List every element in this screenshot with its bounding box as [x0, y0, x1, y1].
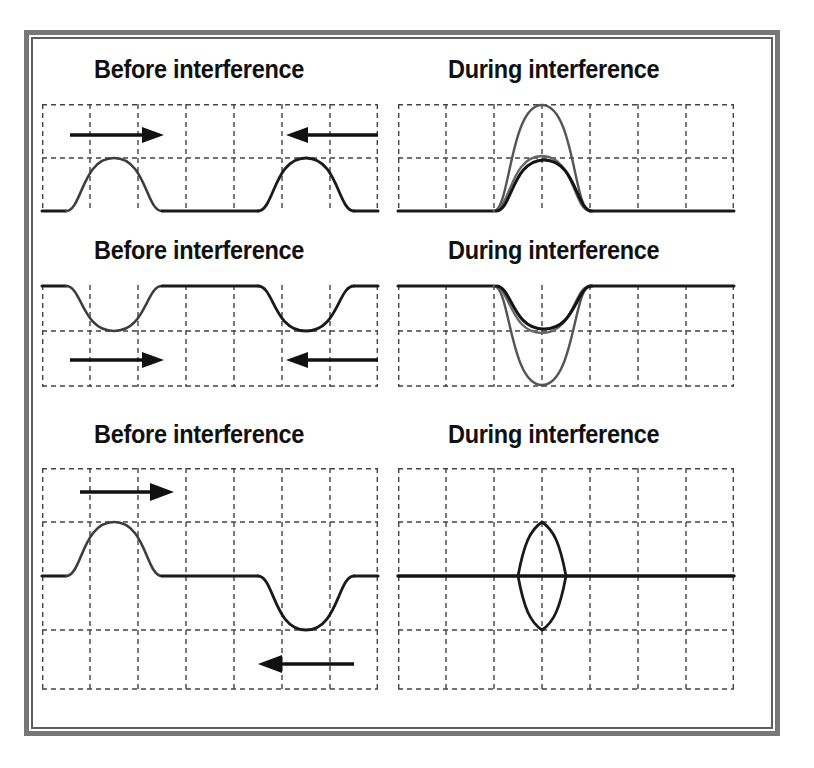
panel-row1-before: Before interference [42, 55, 378, 215]
panel-row2-before: Before interference [42, 236, 378, 386]
panel-row1-during: During interference [398, 55, 734, 215]
arrows-row3-before [42, 468, 442, 690]
panel-title: During interference [448, 420, 659, 449]
panel-row3-during: During interference [398, 420, 734, 690]
arrows-row1-before [42, 104, 442, 216]
panel-title: During interference [448, 55, 659, 84]
panel-row3-before: Before interference [42, 420, 378, 690]
panel-title: During interference [448, 236, 659, 265]
panel-title: Before interference [94, 420, 304, 449]
wave-interference-figure: Before interference [0, 0, 814, 768]
panel-row2-during: During interference [398, 236, 734, 386]
panel-title: Before interference [94, 55, 304, 84]
waves-row2-during [398, 285, 734, 397]
waves-row3-during [398, 468, 734, 690]
arrows-row2-before [42, 285, 442, 387]
waves-row1-during [398, 104, 734, 216]
panel-title: Before interference [94, 236, 304, 265]
